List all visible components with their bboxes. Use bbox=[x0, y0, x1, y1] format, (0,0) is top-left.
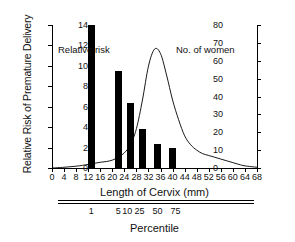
y-axis-right-tick-label: 60 bbox=[213, 56, 223, 66]
y-axis-right-tick bbox=[257, 150, 261, 151]
percentile-tick-label: 75 bbox=[171, 206, 181, 216]
percentile-tick-label: 25 bbox=[134, 206, 144, 216]
x-axis-tick-label: 52 bbox=[204, 172, 214, 182]
y-axis-right-line bbox=[257, 25, 258, 169]
percentile-tick-label: 1 bbox=[89, 206, 94, 216]
bar bbox=[169, 148, 176, 168]
y-axis-right-tick-label: 50 bbox=[213, 74, 223, 84]
y-axis-left-tick-label: 6 bbox=[83, 102, 88, 112]
bar bbox=[127, 103, 134, 168]
y-axis-left-tick-label: 12 bbox=[78, 40, 88, 50]
y-axis-right-tick bbox=[257, 25, 261, 26]
x-axis-tick-label: 36 bbox=[156, 172, 166, 182]
percentile-axis-title: Percentile bbox=[52, 222, 257, 234]
y-axis-left-tick-label: 10 bbox=[78, 61, 88, 71]
y-axis-right-tick-label: 10 bbox=[213, 145, 223, 155]
annotation-no-of-women: No. of women bbox=[176, 44, 246, 55]
y-axis-left-tick-label: 2 bbox=[83, 143, 88, 153]
x-axis-tick-label: 8 bbox=[74, 172, 79, 182]
x-axis-tick-label: 4 bbox=[62, 172, 67, 182]
chart-figure: Relative Risk of Premature Delivery Rela… bbox=[0, 0, 295, 242]
x-axis-tick-label: 68 bbox=[252, 172, 262, 182]
y-axis-right-tick bbox=[257, 43, 261, 44]
y-axis-right-tick-label: 70 bbox=[213, 38, 223, 48]
y-axis-left-title: Relative Risk of Premature Delivery bbox=[21, 9, 33, 179]
x-axis-tick-label: 40 bbox=[168, 172, 178, 182]
x-axis-title: Length of Cervix (mm) bbox=[52, 186, 257, 198]
x-axis-tick-label: 28 bbox=[131, 172, 141, 182]
x-axis-tick-label: 16 bbox=[95, 172, 105, 182]
y-axis-right-tick-label: 30 bbox=[213, 109, 223, 119]
percentile-tick-label: 5 bbox=[116, 206, 121, 216]
y-axis-right-tick bbox=[257, 97, 261, 98]
y-axis-left-tick-label: 4 bbox=[83, 122, 88, 132]
y-axis-left-tick-label: 14 bbox=[78, 20, 88, 30]
bar bbox=[154, 144, 161, 169]
y-axis-left-tick-label: 8 bbox=[83, 81, 88, 91]
y-axis-right-tick bbox=[257, 132, 261, 133]
x-axis-tick-label: 20 bbox=[107, 172, 117, 182]
percentile-rule bbox=[58, 200, 254, 204]
x-axis-tick-label: 24 bbox=[119, 172, 129, 182]
y-axis-left-line bbox=[52, 25, 53, 169]
x-axis-tick-label: 12 bbox=[83, 172, 93, 182]
x-axis-tick-label: 0 bbox=[49, 172, 54, 182]
y-axis-right-tick bbox=[257, 114, 261, 115]
x-axis-tick-label: 56 bbox=[216, 172, 226, 182]
y-axis-right-tick-label: 80 bbox=[213, 20, 223, 30]
x-axis-tick-label: 64 bbox=[240, 172, 250, 182]
percentile-tick-label: 50 bbox=[152, 206, 162, 216]
bar bbox=[139, 129, 146, 168]
y-axis-right-tick bbox=[257, 61, 261, 62]
percentile-tick-label: 10 bbox=[122, 206, 132, 216]
bar bbox=[115, 71, 122, 168]
y-axis-right-tick-label: 20 bbox=[213, 127, 223, 137]
y-axis-right-tick bbox=[257, 79, 261, 80]
y-axis-right-tick-label: 40 bbox=[213, 92, 223, 102]
x-axis-tick-label: 32 bbox=[143, 172, 153, 182]
x-axis-tick-label: 60 bbox=[228, 172, 238, 182]
x-axis-tick-label: 44 bbox=[180, 172, 190, 182]
x-axis-tick-label: 48 bbox=[192, 172, 202, 182]
